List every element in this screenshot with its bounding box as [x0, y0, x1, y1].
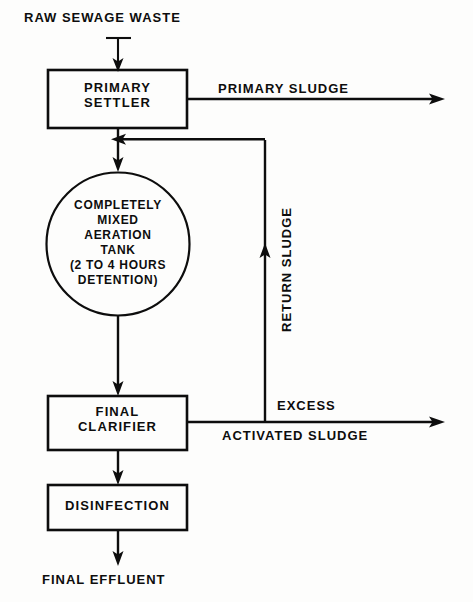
final-clarifier-label-line-1: FINAL — [48, 404, 187, 419]
return-sludge-label: RETURN SLUDGE — [279, 207, 294, 332]
aeration-to-clarifier-arrow — [113, 316, 124, 396]
disinfection-label-line-1: DISINFECTION — [48, 498, 187, 513]
aeration-tank-label: COMPLETELY MIXED AERATION TANK (2 TO 4 H… — [38, 198, 198, 288]
final-clarifier-label-line-2: CLARIFIER — [48, 419, 187, 434]
aeration-tank-label-line-1: COMPLETELY — [38, 198, 198, 213]
final-effluent-label: FINAL EFFLUENT — [42, 572, 166, 587]
activated-sludge-label: ACTIVATED SLUDGE — [222, 428, 368, 443]
aeration-tank-label-line-6: DETENTION) — [38, 273, 198, 288]
settler-to-aeration-arrow — [113, 128, 124, 172]
aeration-tank-label-line-3: AERATION — [38, 228, 198, 243]
clarifier-to-disinfection-arrow — [113, 450, 124, 485]
process-flow-diagram: RAW SEWAGE WASTE PRIMARY SETTLER PRIMARY… — [0, 0, 473, 602]
final-clarifier-label: FINAL CLARIFIER — [48, 404, 187, 435]
primary-settler-label-line-2: SETTLER — [48, 95, 187, 110]
aeration-tank-label-line-2: MIXED — [38, 213, 198, 228]
disinfection-label: DISINFECTION — [48, 498, 187, 513]
primary-settler-label-line-1: PRIMARY — [48, 80, 187, 95]
final-effluent-arrow — [113, 530, 124, 566]
excess-activated-sludge-arrow — [187, 417, 445, 428]
excess-label: EXCESS — [277, 398, 336, 413]
primary-settler-label: PRIMARY SETTLER — [48, 80, 187, 111]
aeration-tank-label-line-5: (2 TO 4 HOURS — [38, 258, 198, 273]
raw-sewage-waste-label: RAW SEWAGE WASTE — [24, 10, 181, 25]
primary-sludge-label: PRIMARY SLUDGE — [218, 81, 349, 96]
aeration-tank-label-line-4: TANK — [38, 243, 198, 258]
raw-sewage-inlet-arrow — [106, 38, 131, 72]
